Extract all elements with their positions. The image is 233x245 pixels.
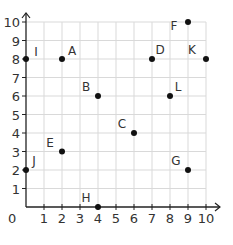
y-tick-label: 10 xyxy=(3,15,20,30)
point-label: G xyxy=(171,154,180,168)
x-tick-label: 5 xyxy=(112,211,120,226)
y-tick-label: 8 xyxy=(12,52,20,67)
x-tick-label: 10 xyxy=(198,211,215,226)
point-label: B xyxy=(82,80,90,94)
point-i xyxy=(23,56,29,62)
point-label: A xyxy=(68,44,77,58)
y-tick-label: 7 xyxy=(12,71,20,86)
point-label: E xyxy=(46,136,54,150)
point-label: I xyxy=(34,45,38,59)
point-d xyxy=(149,56,155,62)
x-tick-label: 3 xyxy=(76,211,84,226)
point-f xyxy=(185,19,191,25)
origin-label: 0 xyxy=(8,211,16,226)
point-label: C xyxy=(118,117,126,131)
x-tick-label: 4 xyxy=(94,211,102,226)
y-tick-label: 6 xyxy=(12,89,20,104)
point-l xyxy=(167,93,173,99)
x-tick-label: 1 xyxy=(40,211,48,226)
point-label: L xyxy=(175,80,182,94)
grid-lines xyxy=(26,22,206,207)
point-c xyxy=(131,130,137,136)
point-j xyxy=(23,167,29,173)
y-tick-label: 3 xyxy=(12,145,20,160)
x-tick-label: 2 xyxy=(58,211,66,226)
point-label: J xyxy=(31,154,36,168)
point-g xyxy=(185,167,191,173)
point-b xyxy=(95,93,101,99)
point-e xyxy=(59,149,65,155)
point-label: D xyxy=(155,43,164,57)
point-a xyxy=(59,56,65,62)
x-tick-label: 7 xyxy=(148,211,156,226)
x-tick-label: 8 xyxy=(166,211,174,226)
point-label: H xyxy=(81,191,90,205)
y-tick-label: 5 xyxy=(12,108,20,123)
point-label: F xyxy=(171,19,178,33)
point-label: K xyxy=(188,43,197,57)
coordinate-grid-chart: 01234567891012345678910 IABCDEFGHJKL xyxy=(0,0,233,245)
y-tick-label: 2 xyxy=(12,163,20,178)
y-tick-label: 4 xyxy=(12,126,20,141)
y-tick-label: 9 xyxy=(12,34,20,49)
x-tick-label: 6 xyxy=(130,211,138,226)
point-k xyxy=(203,56,209,62)
y-tick-label: 1 xyxy=(12,182,20,197)
x-tick-label: 9 xyxy=(184,211,192,226)
point-h xyxy=(95,204,101,210)
